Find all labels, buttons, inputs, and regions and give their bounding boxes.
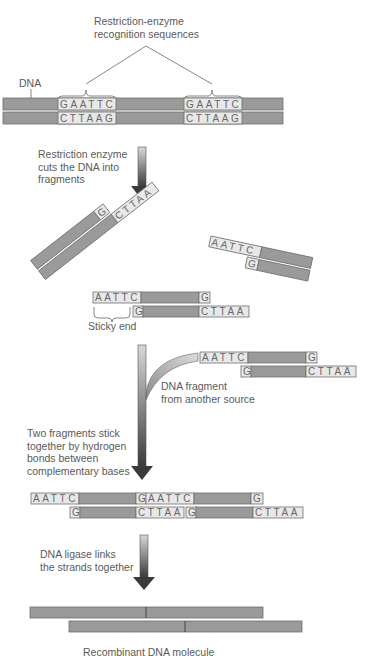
svg-text:AATTC: AATTC bbox=[95, 292, 140, 303]
step2-line-3: bonds between bbox=[27, 452, 130, 465]
step3-line-2: the strands together bbox=[40, 561, 133, 574]
svg-text:CTTAA: CTTAA bbox=[308, 366, 353, 377]
dna-label: DNA bbox=[19, 77, 41, 90]
result-label: Recombinant DNA molecule bbox=[83, 646, 214, 656]
step2-line-2: together by hydrogen bbox=[27, 440, 130, 453]
svg-text:GAATTC: GAATTC bbox=[60, 99, 115, 110]
step2-label: Two fragments stick together by hydrogen… bbox=[27, 427, 130, 477]
step3-label: DNA ligase links the strands together bbox=[40, 548, 133, 573]
svg-text:AATTC: AATTC bbox=[211, 236, 257, 256]
annealed-fragments: AATTC G AATTC G G CTTAA G CTTAA bbox=[31, 493, 303, 518]
arrow-down-3-icon bbox=[133, 535, 155, 590]
svg-text:G: G bbox=[253, 493, 263, 504]
step3-line-1: DNA ligase links bbox=[40, 548, 133, 561]
svg-text:CTTAAG: CTTAAG bbox=[186, 113, 241, 124]
step1-line-3: fragments bbox=[38, 173, 127, 186]
recognition-label: Restriction-enzyme recognition sequences bbox=[94, 15, 199, 40]
recognition-label-line-1: Restriction-enzyme bbox=[94, 15, 199, 28]
svg-text:AATTC: AATTC bbox=[33, 493, 78, 504]
recognition-pointer-lines bbox=[86, 46, 212, 84]
step1-line-2: cuts the DNA into bbox=[38, 161, 127, 174]
fragment-middle: AATTC G G CTTAA bbox=[93, 292, 249, 322]
foreign-fragment-line-2: from another source bbox=[161, 393, 255, 406]
step1-line-1: Restriction enzyme bbox=[38, 148, 127, 161]
step1-label: Restriction enzyme cuts the DNA into fra… bbox=[38, 148, 127, 186]
svg-text:CTTAA: CTTAA bbox=[201, 306, 246, 317]
recombinant-dna bbox=[30, 607, 302, 632]
step2-line-1: Two fragments stick bbox=[27, 427, 130, 440]
svg-text:GAATTC: GAATTC bbox=[186, 99, 241, 110]
fragment-right-tilted: AATTC G bbox=[206, 236, 313, 281]
svg-text:G: G bbox=[201, 292, 211, 303]
foreign-fragment-label: DNA fragment from another source bbox=[161, 380, 255, 405]
svg-text:G: G bbox=[308, 352, 318, 363]
svg-text:CTTAA: CTTAA bbox=[113, 185, 155, 221]
recognition-label-line-2: recognition sequences bbox=[94, 28, 199, 41]
svg-text:AATTC: AATTC bbox=[202, 352, 247, 363]
fragment-foreign: AATTC G G CTTAA bbox=[200, 352, 356, 377]
foreign-fragment-line-1: DNA fragment bbox=[161, 380, 255, 393]
svg-text:CTTAAG: CTTAAG bbox=[60, 113, 115, 124]
arrow-down-2-icon bbox=[131, 345, 198, 480]
svg-text:CTTAA: CTTAA bbox=[255, 507, 300, 518]
sticky-end-label: Sticky end bbox=[88, 320, 136, 333]
step2-line-4: complementary bases bbox=[27, 465, 130, 478]
svg-text:AATTC: AATTC bbox=[148, 493, 193, 504]
original-dna: GAATTC GAATTC CTTAAG CTTAAG bbox=[3, 46, 283, 124]
svg-text:CTTAA: CTTAA bbox=[138, 507, 183, 518]
